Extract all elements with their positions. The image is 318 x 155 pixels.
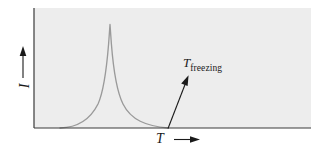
x-axis-arrow-icon: [174, 136, 200, 143]
annotation-subscript: freezing: [190, 63, 222, 73]
y-axis-label-text: I: [17, 69, 33, 103]
y-axis-label: I: [12, 44, 38, 102]
freezing-temperature-annotation: Tfreezing: [183, 55, 222, 73]
x-axis-label-text: T: [156, 131, 164, 147]
lambda-transition-figure: I T Tfreezing: [0, 0, 318, 155]
plot-panel-background: [34, 8, 311, 128]
